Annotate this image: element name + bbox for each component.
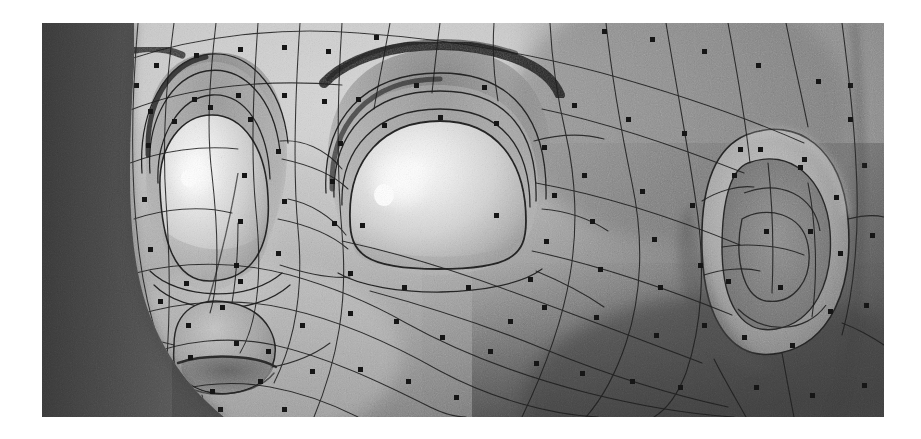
screenshot-canvas bbox=[0, 0, 921, 439]
film-grain-layer-2 bbox=[42, 23, 884, 417]
face-render-svg bbox=[42, 23, 884, 417]
face-model-figure bbox=[42, 23, 884, 417]
